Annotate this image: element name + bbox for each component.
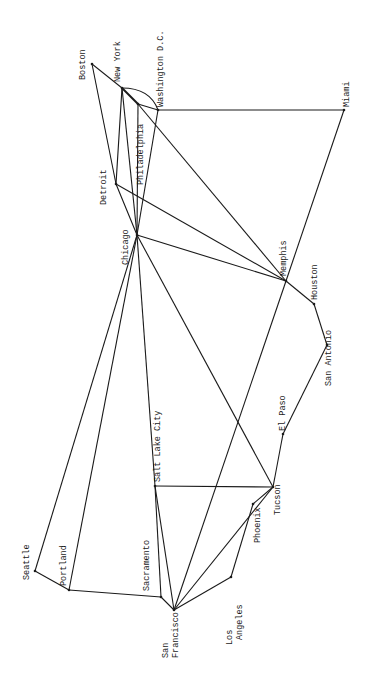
node-portland: [68, 589, 71, 592]
label-seattle: Seattle: [22, 544, 32, 580]
node-philadelphia: [137, 103, 140, 106]
node-phoenix: [252, 503, 255, 506]
edge-elpaso-tucson: [273, 434, 283, 487]
edge-newyork-chicago: [122, 88, 137, 235]
edge-philadelphia-memphis: [138, 104, 286, 281]
label-sacramento: Sacramento: [142, 540, 152, 591]
node-detroit: [115, 183, 118, 186]
city-network-diagram: BostonNew YorkPhiladelphiaWashington D.C…: [0, 0, 368, 694]
network-graph: BostonNew YorkPhiladelphiaWashington D.C…: [0, 0, 368, 694]
edge-miami-memphis: [286, 110, 344, 281]
edge-newyork-philadelphia: [122, 88, 138, 104]
node-memphis: [285, 280, 288, 283]
edge-chicago-seattle: [35, 235, 137, 571]
label-sanantonio: San Antonio: [324, 330, 334, 386]
node-sacramento: [160, 596, 163, 599]
edge-tucson-sanfrancisco: [174, 487, 273, 610]
node-chicago: [136, 234, 139, 237]
label-chicago: Chicago: [121, 229, 131, 265]
labels-layer: BostonNew YorkPhiladelphiaWashington D.C…: [22, 30, 352, 658]
edge-saltlakecity-tucson: [155, 486, 273, 487]
label-houston: Houston: [310, 264, 320, 300]
label-washington: Washington D.C.: [156, 30, 166, 107]
node-elpaso: [282, 433, 285, 436]
node-boston: [91, 63, 94, 66]
label-sanfrancisco-line2: Francisco: [171, 612, 181, 658]
label-elpaso: El Paso: [278, 395, 288, 431]
label-philadelphia: Philadelphia: [136, 124, 146, 185]
node-losangeles: [230, 576, 233, 579]
edge-chicago-portland: [69, 235, 137, 590]
label-saltlakecity: Salt Lake City: [153, 411, 163, 482]
node-saltlakecity: [154, 485, 157, 488]
edge-chicago-memphis: [137, 235, 286, 281]
label-tucson: Tucson: [273, 484, 283, 515]
node-sanfrancisco: [173, 609, 176, 612]
node-houston: [313, 303, 316, 306]
edges-layer: [34, 63, 346, 612]
label-losangeles-line2: Angeles: [235, 604, 245, 640]
label-sanfrancisco-line1: San: [161, 643, 171, 658]
label-losangeles-line1: Los: [225, 630, 235, 645]
node-seattle: [34, 570, 37, 573]
edge-memphis-sanfrancisco: [174, 281, 286, 610]
node-miami: [343, 109, 346, 112]
edge-sanantonio-elpaso: [283, 345, 327, 434]
label-miami: Miami: [342, 81, 352, 107]
edge-phoenix-losangeles: [231, 504, 253, 577]
node-washington: [157, 109, 160, 112]
label-phoenix: Phoenix: [253, 507, 263, 543]
label-boston: Boston: [78, 49, 88, 80]
node-newyork: [121, 87, 124, 90]
label-portland: Portland: [59, 545, 69, 586]
edge-newyork-detroit: [116, 88, 122, 184]
edge-detroit-memphis: [116, 184, 286, 281]
label-detroit: Detroit: [99, 169, 109, 205]
edge-losangeles-sanfrancisco: [174, 577, 231, 610]
label-newyork: New York: [113, 41, 123, 82]
label-memphis: Memphis: [279, 240, 289, 276]
edge-tucson-phoenix: [253, 487, 273, 504]
